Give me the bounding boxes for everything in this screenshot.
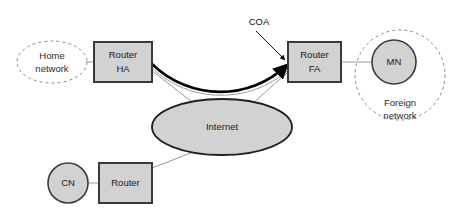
router-cn-node[interactable]: Router [99, 163, 152, 203]
router-fa-node[interactable]: Router FA [288, 42, 341, 82]
mobile-node-label: MN [387, 56, 402, 67]
home-network-label-line1: Home [39, 50, 64, 61]
diagram-svg-canvas: Internet Home network Router HA Router F… [0, 0, 460, 222]
router-fa-label-line1: Router [300, 49, 329, 60]
internet-cloud: Internet [152, 99, 292, 155]
router-cn-label: Router [111, 177, 140, 188]
coa-label: COA [249, 16, 270, 27]
correspondent-node[interactable]: CN [48, 163, 88, 203]
router-ha-node[interactable]: Router HA [94, 42, 152, 82]
coa-arrow-icon [256, 31, 285, 60]
correspondent-node-label: CN [61, 177, 75, 188]
link-router-cn-to-internet [152, 151, 196, 168]
mobile-node[interactable]: MN [372, 40, 416, 84]
foreign-network-label-line2: network [383, 110, 417, 121]
router-fa-label-line2: FA [309, 63, 321, 74]
tunnel-outer-line [152, 64, 287, 92]
home-network-label-line2: network [35, 63, 69, 74]
home-network-zone: Home network [17, 41, 87, 83]
internet-label: Internet [206, 121, 239, 132]
coa-annotation: COA [249, 16, 285, 60]
foreign-network-label-line1: Foreign [384, 97, 416, 108]
router-ha-label-line2: HA [116, 63, 130, 74]
network-diagram: Internet Home network Router HA Router F… [0, 0, 460, 222]
router-ha-label-line1: Router [109, 49, 138, 60]
